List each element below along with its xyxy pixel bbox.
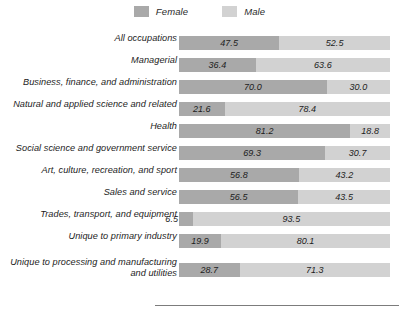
bar-value-female: 21.6: [193, 104, 211, 114]
bar-value-male: 78.4: [298, 104, 316, 114]
bar-segment-male: 71.3: [240, 263, 390, 277]
bar-segment-male: 93.5: [193, 212, 390, 226]
bar-value-male: 93.5: [283, 214, 301, 224]
bar-value-male: 30.0: [349, 82, 367, 92]
baseline-rule: [155, 305, 399, 306]
chart-row: Business, finance, and administration70.…: [0, 77, 399, 99]
bar-value-female: 28.7: [200, 265, 218, 275]
bar-segment-female: 69.3: [179, 146, 325, 160]
bar-segment-female: 56.8: [179, 168, 299, 182]
bar-track: 56.543.5: [179, 190, 390, 204]
bar-value-female: 69.3: [243, 148, 261, 158]
bar-track: 70.030.0: [179, 80, 390, 94]
bar-segment-male: 63.6: [256, 58, 390, 72]
bar-segment-female: 47.5: [179, 36, 279, 50]
bar-segment-female: 19.9: [179, 234, 221, 248]
bar-segment-male: 43.5: [298, 190, 390, 204]
category-label: Managerial: [1, 55, 177, 66]
bar-value-male: 43.5: [335, 192, 353, 202]
category-label: Trades, transport, and equipment: [1, 209, 177, 220]
chart-row: Health81.218.8: [0, 121, 399, 143]
chart-row: Managerial36.463.6: [0, 55, 399, 77]
legend-swatch-male-icon: [222, 6, 237, 17]
chart-row: Sales and service56.543.5: [0, 187, 399, 209]
bar-segment-male: 30.0: [327, 80, 390, 94]
bar-value-male: 52.5: [326, 38, 344, 48]
bar-segment-male: 18.8: [350, 124, 390, 138]
bar-track: 47.552.5: [179, 36, 390, 50]
bar-segment-female: 81.2: [179, 124, 350, 138]
bar-track: 69.330.7: [179, 146, 390, 160]
legend-label-female: Female: [156, 6, 188, 17]
bar-track: 21.678.4: [179, 102, 390, 116]
bar-track: 56.843.2: [179, 168, 390, 182]
bar-segment-male: 43.2: [299, 168, 390, 182]
bar-value-male: 43.2: [336, 170, 354, 180]
bar-value-female: 56.8: [230, 170, 248, 180]
stacked-bar-chart: Female Male All occupations47.552.5Manag…: [0, 0, 399, 314]
bar-segment-female: 6.5: [179, 212, 193, 226]
legend-item-male: Male: [222, 6, 265, 17]
bar-segment-female: 28.7: [179, 263, 240, 277]
bar-value-female: 70.0: [244, 82, 262, 92]
bar-track: 19.980.1: [179, 234, 390, 248]
chart-row: Unique to primary industry19.980.1: [0, 231, 399, 253]
category-label: Sales and service: [1, 187, 177, 198]
bar-segment-female: 56.5: [179, 190, 298, 204]
chart-row: All occupations47.552.5: [0, 33, 399, 55]
legend-label-male: Male: [244, 6, 265, 17]
bar-segment-male: 52.5: [279, 36, 390, 50]
category-label: Business, finance, and administration: [1, 77, 177, 88]
chart-row: Art, culture, recreation, and sport56.84…: [0, 165, 399, 187]
category-label: All occupations: [1, 33, 177, 44]
bar-value-male: 71.3: [306, 265, 324, 275]
bar-segment-male: 30.7: [325, 146, 390, 160]
bar-value-female: 81.2: [256, 126, 274, 136]
bar-value-female: 36.4: [209, 60, 227, 70]
legend-swatch-female-icon: [134, 6, 149, 17]
bar-segment-female: 21.6: [179, 102, 225, 116]
bar-track: 36.463.6: [179, 58, 390, 72]
bar-track: 6.593.5: [179, 212, 390, 226]
bar-value-male: 63.6: [314, 60, 332, 70]
chart-row: Natural and applied science and related2…: [0, 99, 399, 121]
bar-value-female: 19.9: [191, 236, 209, 246]
category-label: Unique to processing and manufacturing a…: [1, 257, 177, 278]
bar-value-male: 80.1: [297, 236, 315, 246]
bar-track: 81.218.8: [179, 124, 390, 138]
bar-segment-male: 80.1: [221, 234, 390, 248]
category-label: Art, culture, recreation, and sport: [1, 165, 177, 176]
bar-segment-female: 36.4: [179, 58, 256, 72]
category-label: Health: [1, 121, 177, 132]
category-label: Natural and applied science and related: [1, 99, 177, 110]
legend-item-female: Female: [134, 6, 188, 17]
bar-track: 28.771.3: [179, 263, 390, 277]
bar-value-male: 30.7: [349, 148, 367, 158]
bar-value-female: 56.5: [230, 192, 248, 202]
plot-area: All occupations47.552.5Managerial36.463.…: [0, 33, 399, 283]
bar-segment-male: 78.4: [225, 102, 390, 116]
chart-legend: Female Male: [0, 6, 399, 17]
bar-segment-female: 70.0: [179, 80, 327, 94]
chart-row: Unique to processing and manufacturing a…: [0, 253, 399, 283]
chart-row: Trades, transport, and equipment6.593.5: [0, 209, 399, 231]
category-label: Unique to primary industry: [1, 231, 177, 242]
bar-value-female: 6.5: [165, 214, 178, 224]
bar-value-female: 47.5: [220, 38, 238, 48]
chart-row: Social science and government service69.…: [0, 143, 399, 165]
category-label: Social science and government service: [1, 143, 177, 154]
bar-value-male: 18.8: [361, 126, 379, 136]
